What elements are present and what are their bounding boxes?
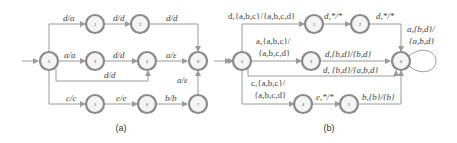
label-a-0-3: a/a: [64, 50, 76, 60]
node-a-0: 0: [40, 52, 58, 70]
label-b-0-1: d,{a,b,c}/{a,b,c,d}: [228, 11, 295, 21]
label-b-0-6: d, {b,d}/{a,b,d}: [323, 65, 379, 75]
diagram-b: 0 1 2 3 4 5 6 d,{a,b,c}/{a,b,c,d} d,*/* …: [225, 11, 436, 133]
diagram-a: 0 1 2 3 4 5 6 7 8 d/a d/d d/d a/a d/d a/…: [22, 13, 230, 133]
label-b-1-2: d,*/*: [324, 11, 343, 21]
node-b-6: 6: [392, 52, 410, 70]
node-a-2: 2: [131, 15, 149, 33]
node-b-5: 5: [340, 95, 358, 113]
label-a-5-6: e/e: [116, 93, 127, 103]
label-a-7-8: a/ε: [177, 75, 188, 85]
edge-b-2-6: [369, 24, 401, 51]
label-b-0-4-line1: c,{a,b,c}/: [251, 78, 286, 88]
caption-b: (b): [324, 123, 335, 133]
label-b-2-6: d,*/*: [376, 11, 395, 21]
node-b-4: 4: [294, 95, 312, 113]
edge-a-0-4: [56, 69, 148, 81]
label-b-0-3-line1: a,{a,b,c}/: [256, 36, 291, 46]
label-a-0-4: d/d: [104, 70, 116, 80]
label-b-3-6: d,{b,d}/{b,d}: [325, 49, 372, 59]
node-a-7: 7: [189, 95, 207, 113]
label-b-4-5: e,*/*: [316, 92, 334, 102]
node-a-1: 1: [86, 15, 104, 33]
node-a-6: 6: [138, 95, 156, 113]
node-a-3: 3: [86, 52, 104, 70]
node-a-4: 4: [138, 52, 156, 70]
diagram-canvas: 0 1 2 3 4 5 6 7 8 d/a d/d d/d a/a d/d a/…: [0, 0, 457, 143]
label-a-0-1: d/a: [63, 13, 75, 23]
label-a-0-5: c/c: [66, 93, 77, 103]
caption-a: (a): [116, 123, 127, 133]
node-b-1: 1: [305, 15, 323, 33]
node-b-0: 0: [233, 52, 251, 70]
label-b-0-3-line2: {a,b,c,d}: [258, 48, 290, 58]
label-a-2-8: d/d: [166, 13, 178, 23]
label-b-6-self-line2: {a,b,d}: [409, 36, 435, 46]
node-a-5: 5: [86, 95, 104, 113]
label-b-6-self-line1: a,{b,d}/: [407, 24, 436, 34]
label-a-3-4: d/d: [113, 50, 125, 60]
node-b-2: 2: [351, 15, 369, 33]
label-a-6-7: b/b: [165, 93, 177, 103]
label-b-0-4-line2: {a,b,c,d}: [254, 90, 286, 100]
edge-a-2-8: [149, 24, 198, 51]
label-b-5-6: b,{b}/{b}: [362, 92, 395, 102]
label-a-4-8: a/ε: [166, 50, 177, 60]
node-a-8: 8: [189, 52, 207, 70]
label-a-1-2: d/d: [113, 13, 125, 23]
node-b-3: 3: [302, 52, 320, 70]
edge-b-6-self: [409, 50, 436, 71]
edge-a-0-1: [49, 24, 85, 52]
